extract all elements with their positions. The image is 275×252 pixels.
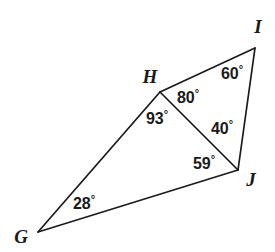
edge-J-G xyxy=(38,170,238,232)
geometry-canvas xyxy=(0,0,275,252)
edge-I-J xyxy=(238,48,255,170)
edge-H-J xyxy=(160,92,238,170)
edge-group xyxy=(38,48,255,232)
edge-H-I xyxy=(160,48,255,92)
geometry-figure: GHIJ 28°93°80°60°40°59° xyxy=(0,0,275,252)
edge-G-H xyxy=(38,92,160,232)
